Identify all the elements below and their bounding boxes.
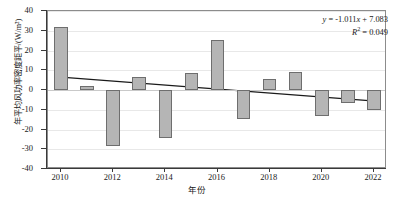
bar xyxy=(211,40,225,90)
bar xyxy=(367,90,381,110)
y-axis-tick-mark xyxy=(41,109,46,110)
x-axis-tick-label: 2014 xyxy=(144,172,184,182)
equation-tail: + 7.083 xyxy=(360,15,388,24)
x-axis-tick-label: 2010 xyxy=(40,172,80,182)
y-axis-tick-label: 40 xyxy=(11,6,33,15)
y-axis-tick-mark xyxy=(41,69,46,70)
bar xyxy=(185,73,199,90)
x-axis-title: 年份 xyxy=(0,183,393,195)
bar xyxy=(132,77,146,90)
y-axis-tick-mark xyxy=(41,50,46,51)
bar xyxy=(341,90,355,103)
gridline xyxy=(48,110,385,111)
y-axis-tick-label: -30 xyxy=(11,144,33,153)
regression-annotation: y = -1.011x + 7.083 R2 = 0.049 xyxy=(250,14,388,38)
y-axis-tick-label: -20 xyxy=(11,124,33,133)
gridline xyxy=(48,149,385,150)
y-axis-tick-mark xyxy=(41,129,46,130)
y-axis-tick-label: 0 xyxy=(11,85,33,94)
bar xyxy=(237,90,251,119)
y-axis-tick-mark xyxy=(41,10,46,11)
y-axis-tick-label: -40 xyxy=(11,164,33,173)
gridline xyxy=(48,130,385,131)
x-axis-tick-label: 2016 xyxy=(197,172,237,182)
y-axis-tick-label: 30 xyxy=(11,26,33,35)
y-axis-tick-mark xyxy=(41,168,46,169)
bar xyxy=(80,86,94,90)
bar xyxy=(315,90,329,116)
r-squared-value: = 0.049 xyxy=(360,28,388,37)
x-axis-tick-label: 2020 xyxy=(301,172,341,182)
gridline xyxy=(48,11,385,12)
bar xyxy=(159,90,173,138)
r-squared-label: R2 = 0.049 xyxy=(250,25,388,38)
y-axis-tick-mark xyxy=(41,89,46,90)
y-axis-tick-label: 20 xyxy=(11,45,33,54)
bar xyxy=(106,90,120,146)
y-axis-tick-label: -10 xyxy=(11,105,33,114)
y-axis-tick-mark xyxy=(41,148,46,149)
x-axis-tick-label: 2018 xyxy=(249,172,289,182)
wind-power-density-anomaly-chart: 年平均风功率密度距平/(W/m²) 403020100-10-20-30-40 … xyxy=(0,0,393,197)
x-axis-tick-label: 2012 xyxy=(92,172,132,182)
bar xyxy=(289,72,303,90)
bar xyxy=(263,79,277,90)
y-axis-tick-label: 10 xyxy=(11,65,33,74)
equation-rhs: = -1.011 xyxy=(326,15,356,24)
x-axis-tick-label: 2022 xyxy=(353,172,393,182)
zero-line xyxy=(48,90,385,91)
bar xyxy=(54,27,68,90)
regression-equation: y = -1.011x + 7.083 xyxy=(250,14,388,25)
y-axis-tick-mark xyxy=(41,30,46,31)
y-axis-tick-label-group: 403020100-10-20-30-40 xyxy=(0,0,33,197)
